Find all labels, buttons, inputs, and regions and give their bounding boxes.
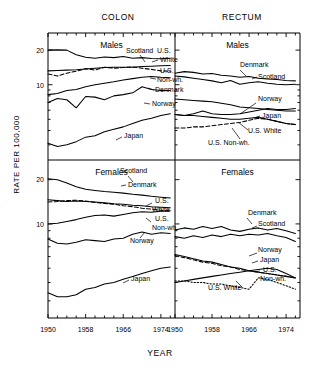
label-colon-males-denmark: Denmark xyxy=(155,86,184,93)
leader-colon-females-japan xyxy=(123,280,129,283)
label-colon-males-norway: Norway xyxy=(152,100,176,108)
label-rectum-females-us-nonwh-1: U.S. xyxy=(263,266,277,273)
series-line-denmark xyxy=(48,76,170,94)
leader-colon-males-japan xyxy=(116,137,122,140)
y-tick-label: 20 xyxy=(36,176,44,183)
leader-colon-males-norway xyxy=(144,103,150,104)
label-rectum-males-scotland: Scotland xyxy=(258,73,285,80)
label-colon-females-denmark: Denmark xyxy=(128,181,157,188)
leader-rectum-females-japan xyxy=(252,261,258,263)
label-rectum-males-japan: Japan xyxy=(262,112,281,120)
label-colon-males-us-nonwh-1: U.S. xyxy=(160,67,174,74)
x-tick-label: 1958 xyxy=(78,326,94,333)
figure-root: COLON RECTUM RATE PER 100,000 YEAR 19501… xyxy=(0,0,321,372)
label-colon-females-japan: Japan xyxy=(131,275,150,283)
label-colon-females-us-white-1: U.S. xyxy=(155,197,169,204)
leader-rectum-males-us-white xyxy=(238,122,248,130)
series-line-denmark xyxy=(175,227,295,234)
x-tick-label: 1974 xyxy=(278,326,294,333)
label-rectum-males-denmark: Denmark xyxy=(240,61,269,68)
x-tick-label: 1950 xyxy=(167,326,183,333)
label-rectum-females-scotland: Scotland xyxy=(258,220,285,227)
series-line-u-s-non-wh xyxy=(48,67,170,76)
label-rectum-males-us-nonwh: U.S. Non-wh. xyxy=(208,139,250,146)
panel-title-colon-males: Males xyxy=(100,40,123,50)
label-colon-males-us-white-1: U.S. xyxy=(157,47,171,54)
chart-plot-area: 1950195819661974195019581966197410201020… xyxy=(0,0,321,372)
label-colon-females-us-nonwh-2: Non-wh. xyxy=(152,224,178,231)
panel-title-rectum-males: Males xyxy=(226,40,249,50)
panel-title-rectum-females: Females xyxy=(221,167,254,177)
label-rectum-females-denmark: Denmark xyxy=(248,209,277,216)
y-tick-label: 20 xyxy=(36,47,44,54)
label-colon-females-scotland: Scotland xyxy=(120,167,147,174)
x-tick-label: 1966 xyxy=(241,326,257,333)
x-tick-label: 1966 xyxy=(115,326,131,333)
leader-rectum-males-denmark xyxy=(240,70,246,76)
leader-rectum-females-denmark xyxy=(247,218,252,224)
series-line-japan xyxy=(48,114,170,147)
label-colon-males-scotland: Scotland xyxy=(126,47,153,54)
label-colon-females-us-nonwh-1: U.S. xyxy=(155,215,169,222)
x-tick-label: 1958 xyxy=(204,326,220,333)
y-tick-label: 10 xyxy=(36,82,44,89)
leader-rectum-females-norway xyxy=(249,253,257,256)
label-rectum-females-us-white: U.S. White xyxy=(208,284,242,291)
label-colon-males-us-nonwh-2: Non-wh. xyxy=(157,76,183,83)
leader-colon-males-us-nonwh xyxy=(150,78,156,79)
leader-rectum-males-us-nonwh xyxy=(232,128,240,139)
label-rectum-females-japan: Japan xyxy=(260,256,279,264)
label-rectum-females-norway: Norway xyxy=(258,246,282,254)
leader-colon-males-scotland xyxy=(140,55,145,62)
label-colon-females-us-white-2: White xyxy=(152,206,170,213)
x-tick-label: 1950 xyxy=(40,326,56,333)
leader-colon-females-denmark xyxy=(121,185,126,186)
leader-colon-males-us-white xyxy=(152,60,158,62)
label-rectum-males-us-white: U.S. White xyxy=(248,127,282,134)
label-rectum-males-norway: Norway xyxy=(258,95,282,103)
y-tick-label: 10 xyxy=(36,221,44,228)
series-line-japan xyxy=(48,267,170,297)
label-colon-females-norway: Norway xyxy=(130,237,154,245)
leader-colon-females-us-nonwh xyxy=(146,218,151,222)
label-rectum-females-us-nonwh-2: Non-wh. xyxy=(260,275,286,282)
series-line-scotland xyxy=(175,234,295,242)
label-colon-males-us-white-2: White xyxy=(160,56,178,63)
label-colon-males-japan: Japan xyxy=(124,132,143,140)
